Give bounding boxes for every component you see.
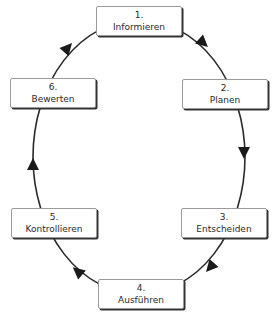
step-informieren: 1. Informieren: [96, 6, 182, 36]
step-number: 3.: [220, 211, 229, 223]
step-number: 4.: [137, 282, 146, 294]
step-planen: 2. Planen: [182, 79, 268, 109]
cycle-path: [33, 20, 245, 294]
arrow-2-to-3-icon: [238, 147, 250, 159]
step-number: 1.: [135, 9, 144, 21]
step-kontrollieren: 5. Kontrollieren: [11, 208, 97, 238]
step-entscheiden: 3. Entscheiden: [181, 208, 267, 238]
arrow-5-to-6-icon: [27, 158, 39, 170]
step-label: Bewerten: [31, 93, 74, 105]
step-bewerten: 6. Bewerten: [10, 78, 96, 108]
step-label: Entscheiden: [196, 223, 251, 235]
step-label: Kontrollieren: [26, 223, 83, 235]
arrow-3-to-4-icon: [202, 259, 219, 276]
step-label: Planen: [210, 94, 240, 106]
cycle-diagram: [0, 0, 275, 316]
step-label: Informieren: [113, 21, 165, 33]
step-label: Ausführen: [118, 294, 164, 306]
step-number: 6.: [49, 81, 58, 93]
step-ausfuehren: 4. Ausführen: [98, 279, 184, 309]
arrow-6-to-1-icon: [60, 39, 77, 56]
arrow-4-to-5-icon: [69, 263, 86, 280]
step-number: 5.: [50, 211, 59, 223]
step-number: 2.: [221, 82, 230, 94]
